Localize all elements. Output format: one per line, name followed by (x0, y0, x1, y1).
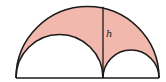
label-h: h (106, 28, 112, 39)
shaded-region (16, 7, 159, 78)
arbelos-diagram: h (0, 0, 166, 82)
